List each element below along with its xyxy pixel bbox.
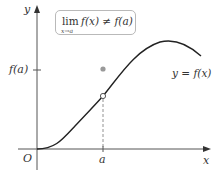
curve-f xyxy=(37,41,201,149)
y-axis-label: y xyxy=(24,4,30,15)
fa-label: f(a) xyxy=(9,64,28,75)
lim-subscript: x→a xyxy=(61,27,73,34)
limit-annotation-box: lim x→a f(x) ≠ f(a) xyxy=(55,10,136,35)
x-axis-arrow-icon xyxy=(203,146,211,152)
a-label: a xyxy=(99,154,106,165)
y-axis-arrow-icon xyxy=(34,5,40,13)
open-point xyxy=(100,93,105,98)
origin-label: O xyxy=(23,153,32,164)
lim-label: lim xyxy=(62,15,79,27)
filled-point xyxy=(100,66,105,71)
limit-expression: f(x) ≠ f(a) xyxy=(81,15,133,27)
curve-label: y = f(x) xyxy=(172,68,211,79)
x-axis-label: x xyxy=(203,155,209,166)
